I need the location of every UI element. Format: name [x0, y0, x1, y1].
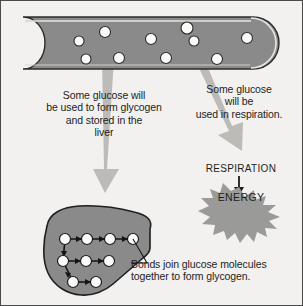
energy-starburst — [198, 183, 280, 243]
arrow-to-liver-icon — [93, 59, 119, 193]
glucose-fate-diagram: Some glucose will be used to form glycog… — [0, 0, 303, 306]
diagram-artwork — [1, 1, 303, 306]
